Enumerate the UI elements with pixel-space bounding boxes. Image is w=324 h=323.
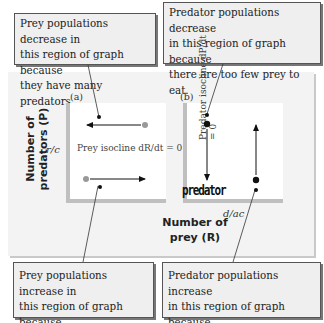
leader-line-top-left: [88, 65, 99, 117]
leader-line-bottom-right: [233, 190, 255, 262]
start-dot-gray: [83, 176, 89, 182]
callout-predator-increase: Predator populations increase in this re…: [162, 262, 321, 318]
start-dot-black: [253, 177, 259, 183]
pointer-dot: [205, 113, 209, 117]
pointer-dot: [97, 115, 101, 119]
pointer-dot: [254, 188, 258, 192]
callout-prey-increase: Prey populations increase in this region…: [13, 262, 154, 318]
leader-line-top-right: [207, 64, 223, 114]
start-dot-gray: [142, 122, 148, 128]
pointer-dot: [98, 185, 102, 189]
start-dot-black: [204, 121, 210, 127]
leader-line-bottom-left: [83, 186, 98, 262]
